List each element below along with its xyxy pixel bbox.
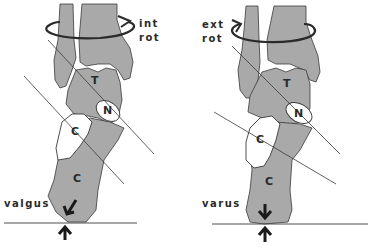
left-rotation-arrowhead-icon xyxy=(118,16,130,27)
left-navicular-label: N xyxy=(103,104,112,117)
right-ground-reaction-arrow-icon xyxy=(259,228,271,242)
right-panel: ext rot varus T N C C xyxy=(202,6,368,242)
right-rotation-label-2: rot xyxy=(202,33,223,44)
left-panel: int rot valgus T N C C xyxy=(4,4,160,240)
right-navicular-label: N xyxy=(294,107,303,120)
right-cuboid-label: C xyxy=(256,133,264,146)
right-talus-label: T xyxy=(283,77,291,90)
left-calcaneus-label: C xyxy=(73,172,81,185)
left-rotation-label-2: rot xyxy=(139,32,160,43)
left-deformity-label: valgus xyxy=(4,198,50,209)
foot-diagram: int rot valgus T N C C ext rot var xyxy=(0,0,374,248)
right-calcaneus-label: C xyxy=(265,175,273,188)
left-fibula xyxy=(54,4,76,88)
left-ground-reaction-arrow-icon xyxy=(59,227,71,240)
left-cuboid-label: C xyxy=(71,125,79,138)
right-deformity-label: varus xyxy=(202,198,241,209)
left-talus-label: T xyxy=(91,74,99,87)
left-rotation-label-1: int xyxy=(139,18,159,29)
right-rotation-label-1: ext xyxy=(202,19,225,30)
